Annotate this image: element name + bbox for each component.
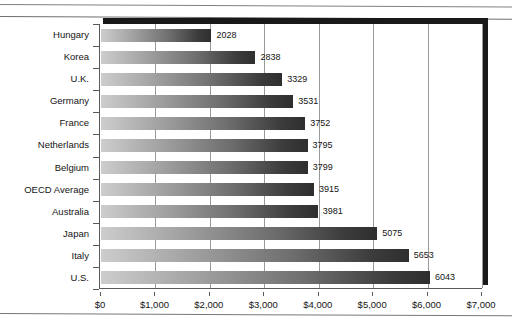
category-label: Netherlands [38,140,89,150]
bar-row: 2028 [101,24,482,46]
bar-value-label: 5075 [382,229,402,238]
bars-layer: 2028283833293531375237953799391539815075… [101,24,482,287]
bar-row: 2838 [101,46,482,68]
category-label: Italy [72,251,89,261]
bar-row: 3981 [101,201,482,223]
value-tick [427,292,428,296]
value-tick-label: $1,000 [140,300,169,310]
value-tick [209,292,210,296]
bar-value-label: 3752 [310,119,330,128]
value-tick-label: $5,000 [358,300,387,310]
bar [101,139,308,152]
value-tick [263,292,264,296]
bar [101,51,255,64]
category-label: Hungary [53,30,89,40]
plot-area: 2028283833293531375237953799391539815075… [99,24,482,289]
bar-value-label: 3981 [323,207,343,216]
bar-row: 3915 [101,179,482,201]
value-tick [154,292,155,296]
bar [101,73,282,86]
bar-row: 3799 [101,157,482,179]
bar-row: 5075 [101,223,482,245]
bar [101,271,430,284]
value-tick [481,292,482,296]
value-axis: $0$1,000$2,000$3,000$4,000$5,000$6,000$7… [0,292,512,312]
bar [101,183,314,196]
value-tick-label: $6,000 [412,300,441,310]
category-label: Japan [63,229,89,239]
bar-row: 3329 [101,68,482,90]
bar-value-label: 3795 [313,141,333,150]
category-label: France [59,118,89,128]
value-tick-label: $7,000 [466,300,495,310]
plot-frame: 2028283833293531375237953799391539815075… [99,18,488,289]
value-tick-label: $2,000 [194,300,223,310]
bar-row: 5653 [101,245,482,267]
bar-chart-figure: HungaryKoreaU.K.GermanyFranceNetherlands… [0,0,512,324]
bar [101,95,293,108]
bar [101,161,308,174]
bar [101,29,211,42]
category-label: Australia [52,207,89,217]
value-tick [100,292,101,296]
bar-row: 3752 [101,112,482,134]
bar [101,249,409,262]
value-tick [318,292,319,296]
value-tick-label: $0 [95,300,106,310]
category-tick [93,289,99,290]
scan-artifact-line-bottom [0,313,512,316]
bar-row: 3795 [101,134,482,156]
category-label: Korea [64,52,89,62]
category-label: U.K. [71,74,89,84]
bar-value-label: 5653 [414,251,434,260]
bar-value-label: 3531 [298,97,318,106]
bar-value-label: 2028 [216,31,236,40]
bar-value-label: 3915 [319,185,339,194]
category-label: OECD Average [24,185,89,195]
category-axis: HungaryKoreaU.K.GermanyFranceNetherlands… [0,18,99,289]
bar-value-label: 3799 [313,163,333,172]
gridline [482,24,483,288]
category-label: Belgium [55,163,89,173]
category-label: Germany [50,96,89,106]
bar-value-label: 2838 [260,53,280,62]
bar-value-label: 3329 [287,75,307,84]
bar [101,205,318,218]
bar [101,117,305,130]
value-tick-label: $4,000 [303,300,332,310]
category-label: U.S. [71,273,89,283]
scan-artifact-line-top [0,4,512,8]
bar-value-label: 6043 [435,273,455,282]
bar [101,227,377,240]
bar-row: 3531 [101,90,482,112]
value-tick [372,292,373,296]
value-tick-label: $3,000 [249,300,278,310]
bar-row: 6043 [101,267,482,289]
